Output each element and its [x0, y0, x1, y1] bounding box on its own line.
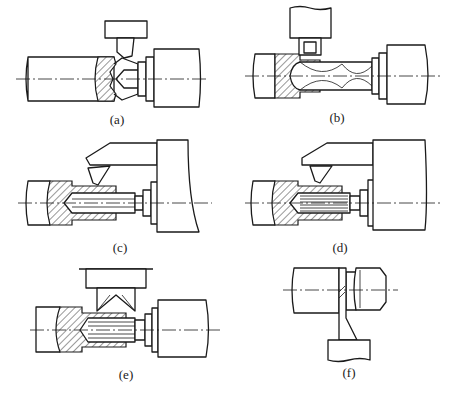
toolpost-e: [86, 269, 146, 288]
cutting-tool-a: [117, 38, 134, 58]
panel-b: [245, 7, 440, 105]
toolpost-f: [328, 340, 370, 362]
lathe-operations-figure: (a) (b) (c) (d) (e) (f): [0, 0, 450, 398]
panel-f: [283, 268, 398, 362]
chuck-c: [157, 140, 199, 232]
panel-a: [16, 21, 207, 107]
panel-e: [30, 269, 220, 357]
workpiece-f: [292, 268, 339, 313]
caption-d: (d): [332, 240, 347, 256]
toolholder-d: [302, 143, 373, 165]
chuck-d: [373, 140, 427, 230]
caption-f: (f): [343, 365, 356, 381]
cutting-tool-d: [310, 166, 332, 183]
caption-e: (e): [119, 367, 133, 383]
toolpost-a: [105, 21, 147, 38]
figure-drawing: [0, 0, 450, 398]
chuck-f: [354, 268, 386, 310]
caption-a: (a): [110, 112, 124, 128]
caption-c: (c): [113, 240, 127, 256]
panel-c: [18, 140, 212, 232]
panel-d: [245, 140, 440, 230]
toolpost-b: [290, 7, 331, 39]
chuck-a: [154, 49, 201, 107]
chuck-e: [158, 300, 209, 357]
grooving-tool-b: [299, 38, 321, 55]
cutting-tool-c: [88, 166, 110, 185]
chuck-b: [387, 45, 428, 104]
double-tool-e: [97, 288, 135, 311]
caption-b: (b): [329, 110, 344, 126]
toolholder-c: [86, 143, 157, 165]
